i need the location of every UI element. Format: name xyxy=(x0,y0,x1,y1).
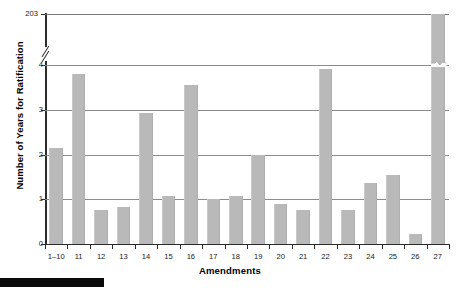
bar xyxy=(364,183,378,244)
x-axis-tick-mark xyxy=(45,244,46,249)
bar xyxy=(341,210,355,244)
x-axis-tick-mark xyxy=(449,244,450,249)
x-axis-tick-mark xyxy=(225,244,226,249)
bar xyxy=(162,196,176,244)
y-axis-tick-mark xyxy=(41,199,45,200)
y-axis-tick-label: 4 xyxy=(17,61,43,69)
bar xyxy=(229,196,243,244)
bar xyxy=(296,210,310,244)
bar xyxy=(251,155,265,245)
x-axis-tick-label: 27 xyxy=(418,252,458,261)
bar xyxy=(409,234,423,244)
gridline xyxy=(45,65,449,66)
bar xyxy=(72,74,86,244)
x-axis-tick-mark xyxy=(90,244,91,249)
bar xyxy=(431,14,445,244)
bar xyxy=(184,85,198,244)
x-axis-tick-mark xyxy=(112,244,113,249)
x-axis-tick-mark xyxy=(337,244,338,249)
gridline xyxy=(45,14,449,15)
x-axis-tick-mark xyxy=(157,244,158,249)
y-axis-tick-label: 3 xyxy=(17,106,43,114)
bar xyxy=(386,175,400,244)
x-axis-tick-mark xyxy=(135,244,136,249)
y-axis-title: Number of Years for Ratification xyxy=(14,21,25,211)
y-axis-tick-mark xyxy=(41,14,45,15)
x-axis-tick-mark xyxy=(180,244,181,249)
page-artifact-black-bar xyxy=(0,278,104,287)
bar xyxy=(139,113,153,244)
y-axis-tick-mark xyxy=(41,155,45,156)
x-axis-tick-mark xyxy=(269,244,270,249)
x-axis-tick-mark xyxy=(382,244,383,249)
bar xyxy=(274,204,288,244)
bar-break-icon xyxy=(431,61,447,69)
y-axis-tick-label: 0 xyxy=(17,240,43,248)
bar xyxy=(319,69,333,244)
bar xyxy=(94,210,108,244)
plot-area xyxy=(45,14,449,244)
y-axis-tick-label: 203 xyxy=(12,10,38,18)
bar xyxy=(49,148,63,244)
y-axis-tick-label: 1 xyxy=(17,195,43,203)
bar xyxy=(207,199,221,244)
gridline xyxy=(45,155,449,156)
x-axis-tick-mark xyxy=(67,244,68,249)
x-axis-tick-mark xyxy=(247,244,248,249)
chart-figure: Number of Years for Ratification 0123420… xyxy=(0,0,460,291)
x-axis-tick-mark xyxy=(314,244,315,249)
y-axis-tick-mark xyxy=(41,110,45,111)
x-axis-tick-mark xyxy=(404,244,405,249)
bar xyxy=(117,207,131,244)
x-axis-tick-mark xyxy=(359,244,360,249)
y-axis-tick-label: 2 xyxy=(17,151,43,159)
y-axis-tick-mark xyxy=(41,65,45,66)
x-axis-tick-mark xyxy=(427,244,428,249)
x-axis-tick-mark xyxy=(292,244,293,249)
x-axis-title: Amendments xyxy=(0,265,460,276)
x-axis-tick-mark xyxy=(202,244,203,249)
gridline xyxy=(45,110,449,111)
